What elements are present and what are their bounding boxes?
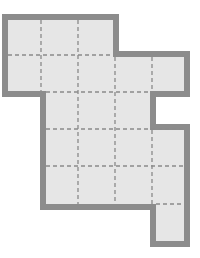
shape-fill	[5, 17, 187, 244]
polyomino-diagram	[0, 0, 200, 258]
